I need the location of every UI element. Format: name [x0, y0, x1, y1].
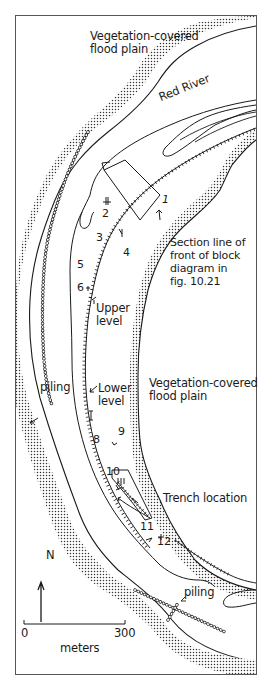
label-section-line: Section line of front of block diagram i… — [170, 236, 245, 288]
label-trench-location: Trench location — [163, 492, 247, 505]
station-12: 12 — [157, 536, 171, 548]
label-piling-south: piling — [184, 586, 214, 599]
scale-bar — [24, 620, 125, 624]
station-1: 1 — [162, 194, 169, 206]
label-scale-max: 300 — [114, 627, 135, 640]
label-floodplain-mid: Vegetation-covered flood plain — [149, 377, 258, 403]
station-2: 2 — [102, 208, 109, 220]
station-9: 9 — [118, 426, 125, 438]
station-6: 6 — [77, 282, 84, 294]
station-8: 8 — [93, 434, 100, 446]
label-north: N — [46, 549, 54, 562]
label-scale-units: meters — [60, 642, 99, 655]
river-map — [0, 0, 267, 690]
section-line — [104, 160, 160, 220]
station-5: 5 — [77, 259, 84, 271]
label-upper-level: Upper level — [96, 302, 130, 328]
station-11: 11 — [140, 521, 154, 533]
station-10: 10 — [106, 466, 120, 478]
station-3: 3 — [96, 232, 103, 244]
north-arrow-icon — [38, 582, 44, 622]
station-4: 4 — [123, 247, 130, 259]
label-scale-zero: 0 — [21, 627, 28, 640]
label-floodplain-top: Vegetation-covered flood plain — [90, 30, 199, 56]
scarp-line — [85, 128, 256, 548]
label-piling-west: piling — [40, 381, 70, 394]
label-lower-level: Lower level — [98, 382, 131, 408]
